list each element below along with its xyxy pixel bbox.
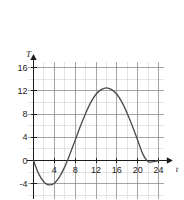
y-tick-label: 4: [22, 132, 27, 142]
y-tick-label: 16: [17, 63, 27, 73]
x-tick-label: 4: [52, 165, 57, 175]
x-tick-label: 12: [91, 165, 101, 175]
x-tick-label: 16: [112, 165, 122, 175]
y-tick-label: -4: [19, 179, 27, 189]
x-tick-label: 20: [133, 165, 143, 175]
x-tick-label: 24: [153, 165, 163, 175]
x-tick-label: 8: [73, 165, 78, 175]
y-tick-label: 8: [22, 109, 27, 119]
y-tick-label: 12: [17, 86, 27, 96]
chart-figure: 4812162024 -40481216 T t: [0, 0, 184, 200]
chart-canvas: 4812162024 -40481216 T t: [0, 0, 184, 200]
y-tick-label: 0: [22, 156, 27, 166]
